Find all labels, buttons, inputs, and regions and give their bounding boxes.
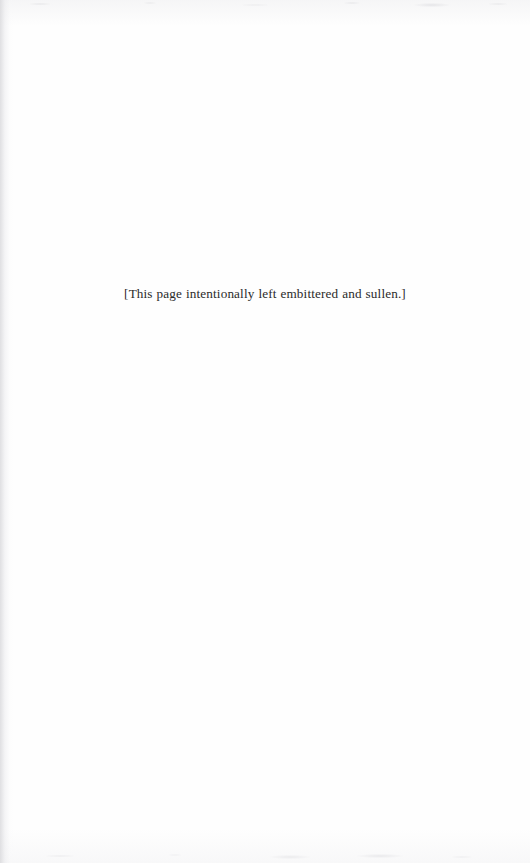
scan-artifacts-bottom bbox=[0, 849, 530, 863]
scanned-page: [This page intentionally left embittered… bbox=[0, 0, 530, 863]
intentionally-blank-notice: [This page intentionally left embittered… bbox=[0, 286, 530, 302]
scan-artifacts-top bbox=[0, 0, 530, 12]
gutter-shadow bbox=[0, 0, 14, 863]
paper-tone-overlay bbox=[0, 0, 530, 863]
